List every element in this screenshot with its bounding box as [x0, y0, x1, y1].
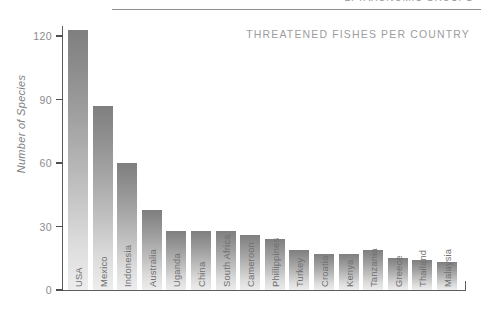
- bar-category-label: Cameroon: [245, 242, 256, 287]
- chart-page: 2. TAXONOMIC GROUPS THREATENED FISHES PE…: [0, 0, 481, 309]
- bar-category-label: Uganda: [171, 253, 182, 287]
- bar-group: Phillippines: [265, 26, 285, 290]
- bar-chart-plot: Number of Species 0306090120 USAMexicoIn…: [0, 0, 481, 309]
- bar-group: Australia: [142, 26, 162, 290]
- y-tick-label: 30: [12, 221, 52, 233]
- bar: [68, 30, 88, 290]
- y-axis-line: [62, 26, 63, 291]
- bar-category-label: Turkey: [294, 258, 305, 287]
- y-tick-mark: [56, 289, 63, 291]
- bar-group: Malaysia: [437, 26, 457, 290]
- bar-category-label: China: [196, 262, 207, 287]
- bar-group: China: [191, 26, 211, 290]
- bar-series: USAMexicoIndonesiaAustraliaUgandaChinaSo…: [64, 26, 464, 290]
- bar-group: Greece: [388, 26, 408, 290]
- y-tick-mark: [56, 99, 63, 101]
- x-axis-line: [62, 290, 466, 291]
- bar-category-label: Croatia: [319, 256, 330, 287]
- x-axis-right-cap: [465, 281, 466, 291]
- bar-group: Turkey: [289, 26, 309, 290]
- y-tick-mark: [56, 35, 63, 37]
- bar-category-label: Phillippines: [269, 238, 280, 287]
- y-tick-label: 0: [12, 284, 52, 296]
- y-tick-label: 120: [12, 30, 52, 42]
- y-tick-label: 90: [12, 94, 52, 106]
- bar-group: Kenya: [339, 26, 359, 290]
- bar-category-label: Malaysia: [442, 249, 453, 287]
- bar-group: Indonesia: [117, 26, 137, 290]
- bar-category-label: South Africa: [220, 235, 231, 287]
- bar-group: Mexico: [93, 26, 113, 290]
- y-tick-mark: [56, 226, 63, 228]
- bar-category-label: Kenya: [343, 260, 354, 287]
- bar-category-label: Australia: [146, 249, 157, 287]
- bar-category-label: Indonesia: [122, 245, 133, 287]
- bar-category-label: Greece: [392, 255, 403, 287]
- y-tick-label: 60: [12, 157, 52, 169]
- bar-category-label: Tanzania: [368, 248, 379, 287]
- bar-group: USA: [68, 26, 88, 290]
- bar-group: Thailand: [412, 26, 432, 290]
- bar-group: Cameroon: [240, 26, 260, 290]
- bar-group: Croatia: [314, 26, 334, 290]
- bar-group: Uganda: [166, 26, 186, 290]
- bar-group: South Africa: [216, 26, 236, 290]
- bar-category-label: Mexico: [97, 256, 108, 287]
- bar-category-label: Thailand: [417, 250, 428, 287]
- bar-category-label: USA: [73, 267, 84, 287]
- bar-group: Tanzania: [363, 26, 383, 290]
- y-tick-mark: [56, 162, 63, 164]
